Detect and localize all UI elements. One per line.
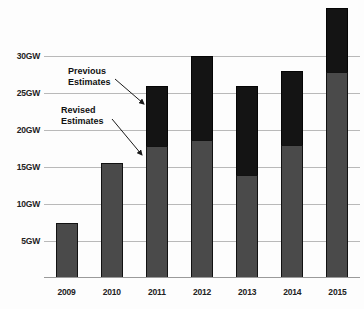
- bar-segment-previous-2012: [191, 56, 213, 140]
- bar-segment-previous-2015: [326, 8, 348, 72]
- bar-group-2010: [101, 0, 123, 278]
- bar-segment-revised-2012: [191, 140, 213, 278]
- annotation-previous-estimates: Previous Estimates: [68, 66, 111, 88]
- y-axis-labels: 5GW10GW15GW20GW25GW30GW: [0, 0, 44, 278]
- bar-segment-previous-2011: [146, 86, 168, 147]
- annotation-revised-line2: Estimates: [61, 116, 104, 127]
- x-axis-tick-label: 2014: [283, 287, 301, 297]
- y-axis-tick-label: 10GW: [17, 199, 40, 209]
- plot-area: [44, 0, 360, 278]
- x-axis-tick-label: 2009: [58, 287, 76, 297]
- bar-chart: 5GW10GW15GW20GW25GW30GW 2009201020112012…: [0, 0, 364, 309]
- y-axis-tick-label: 15GW: [17, 162, 40, 172]
- bar-group-2015: [326, 0, 348, 278]
- x-axis-tick-label: 2012: [193, 287, 211, 297]
- x-axis-tick-label: 2011: [148, 287, 166, 297]
- y-axis-tick-label: 30GW: [17, 51, 40, 61]
- bar-group-2014: [281, 0, 303, 278]
- bar-segment-revised-2011: [146, 146, 168, 278]
- bar-segment-previous-2013: [236, 86, 258, 175]
- bar-group-2009: [56, 0, 78, 278]
- bar-segment-revised-2013: [236, 175, 258, 279]
- bar-segment-revised-2014: [281, 145, 303, 278]
- bar-segment-revised-2009: [56, 223, 78, 278]
- x-axis-tick-label: 2013: [238, 287, 256, 297]
- y-axis-tick-label: 20GW: [17, 125, 40, 135]
- bar-segment-revised-2015: [326, 72, 348, 278]
- annotation-previous-line2: Estimates: [68, 77, 111, 88]
- bar-group-2011: [146, 0, 168, 278]
- x-axis-tick-label: 2015: [328, 287, 346, 297]
- bar-segment-revised-2010: [101, 163, 123, 278]
- x-axis-tick-label: 2010: [103, 287, 121, 297]
- annotation-revised-estimates: Revised Estimates: [61, 105, 104, 127]
- annotation-revised-line1: Revised: [61, 105, 104, 116]
- bar-group-2013: [236, 0, 258, 278]
- y-axis-tick-label: 25GW: [17, 88, 40, 98]
- bar-segment-previous-2014: [281, 71, 303, 145]
- x-axis-labels: 2009201020112012201320142015: [44, 278, 360, 309]
- annotation-previous-line1: Previous: [68, 66, 111, 77]
- bar-group-2012: [191, 0, 213, 278]
- y-axis-tick-label: 5GW: [21, 236, 40, 246]
